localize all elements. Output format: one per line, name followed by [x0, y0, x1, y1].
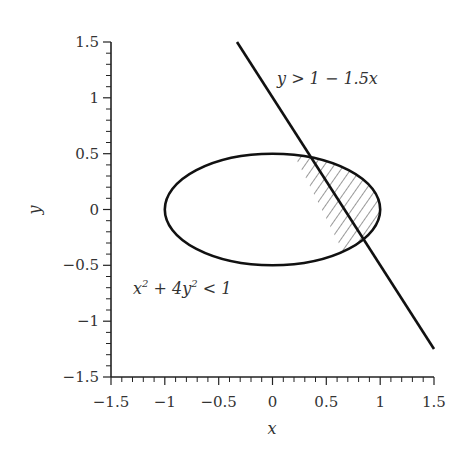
y-tick-labels: 1.5 1 0.5 0 −0.5 −1 −1.5 — [63, 33, 99, 386]
x-axis — [111, 377, 434, 385]
svg-text:0.5: 0.5 — [75, 145, 99, 163]
boundary-line — [237, 42, 434, 349]
svg-text:1: 1 — [89, 89, 99, 107]
y-axis-label: y — [25, 205, 44, 216]
x-axis-label: x — [267, 419, 276, 438]
ellipse-annotation: x2 + 4y2 < 1 — [133, 278, 231, 298]
svg-text:−1: −1 — [154, 393, 176, 411]
inequality-chart: 1.5 1 0.5 0 −0.5 −1 −1.5 −1.5 −1 −0.5 0 … — [0, 0, 472, 463]
svg-text:−0.5: −0.5 — [200, 393, 236, 411]
svg-text:−1: −1 — [77, 312, 99, 330]
svg-text:0: 0 — [268, 393, 278, 411]
x-tick-labels: −1.5 −1 −0.5 0 0.5 1 1.5 — [93, 393, 446, 411]
y-axis — [103, 42, 111, 377]
line-annotation: y > 1 − 1.5x — [276, 69, 378, 88]
svg-text:1: 1 — [375, 393, 385, 411]
svg-text:0.5: 0.5 — [314, 393, 338, 411]
svg-text:1.5: 1.5 — [75, 33, 99, 51]
svg-text:−0.5: −0.5 — [63, 256, 99, 274]
svg-text:−1.5: −1.5 — [63, 368, 99, 386]
svg-text:−1.5: −1.5 — [93, 393, 129, 411]
svg-text:1.5: 1.5 — [422, 393, 446, 411]
svg-text:0: 0 — [89, 201, 99, 219]
